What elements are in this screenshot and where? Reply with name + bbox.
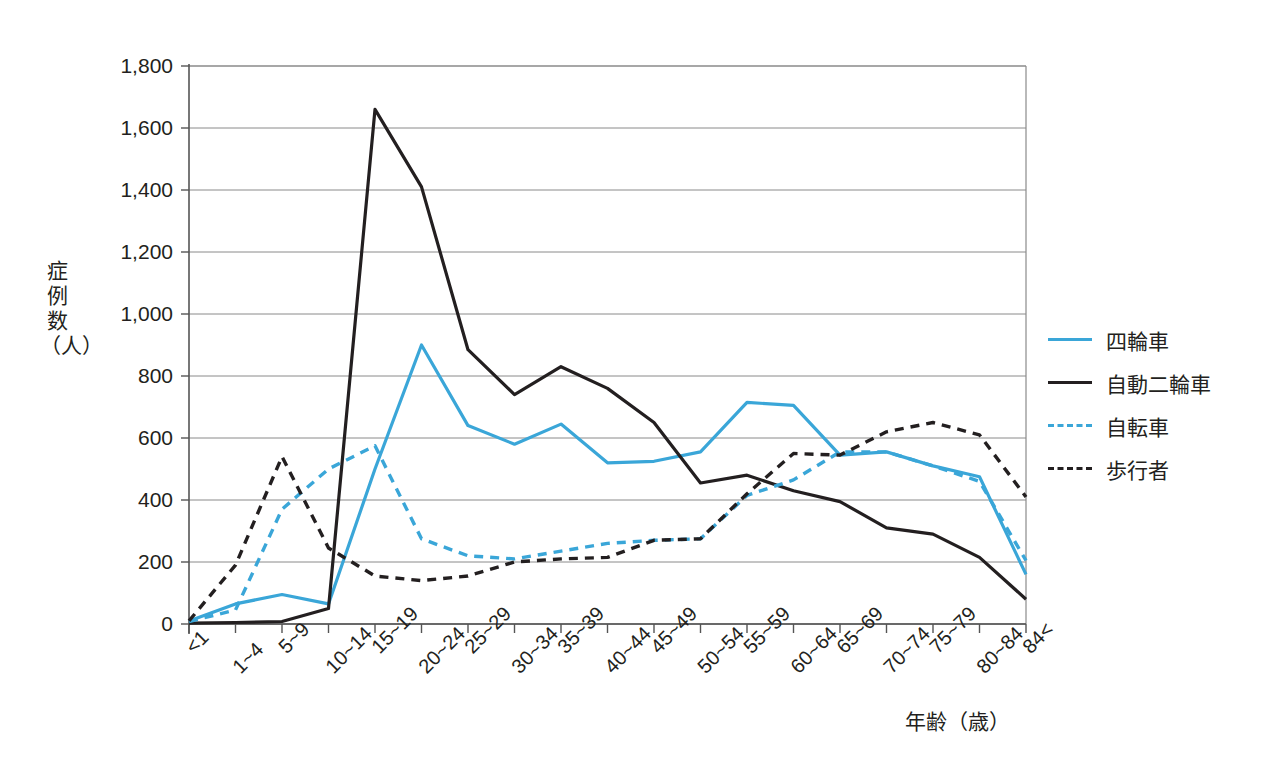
y-axis-tick-label: 1,000 <box>85 301 173 327</box>
y-axis-tick-label: 400 <box>85 487 173 513</box>
y-axis-tick-label: 600 <box>85 425 173 451</box>
legend-item-label: 歩行者 <box>1106 454 1169 484</box>
y-axis-tick-label: 200 <box>85 549 173 575</box>
y-axis-tick-label: 1,600 <box>85 115 173 141</box>
x-tick-marks <box>189 624 1026 633</box>
y-axis-tick-label: 0 <box>85 611 173 637</box>
legend-item-4: 歩行者 <box>1048 447 1211 490</box>
legend-item-label: 四輪車 <box>1106 325 1169 355</box>
y-axis-tick-label: 1,400 <box>85 177 173 203</box>
series-line-2 <box>189 109 1026 623</box>
legend-item-label: 自動二輪車 <box>1106 368 1211 398</box>
y-axis-tick-label: 1,200 <box>85 239 173 265</box>
legend-item-label: 自転車 <box>1106 411 1169 441</box>
legend-item-1: 四輪車 <box>1048 318 1211 361</box>
legend-item-2: 自動二輪車 <box>1048 361 1211 404</box>
gridlines <box>189 66 1026 624</box>
legend-line-swatch <box>1048 424 1092 427</box>
legend-line-swatch <box>1048 338 1092 341</box>
legend-line-swatch <box>1048 467 1092 470</box>
legend-item-3: 自転車 <box>1048 404 1211 447</box>
legend-line-swatch <box>1048 381 1092 384</box>
plot-border <box>189 64 1026 634</box>
y-axis-tick-label: 1,800 <box>85 53 173 79</box>
y-tick-marks <box>181 66 189 624</box>
series-line-3 <box>189 446 1026 622</box>
x-axis-title: 年齢（歳） <box>905 705 1010 735</box>
chart-figure: 症 例 数 （人） 02004006008001,0001,2001,4001,… <box>0 0 1286 782</box>
series-layer <box>189 109 1026 623</box>
chart-legend: 四輪車自動二輪車自転車歩行者 <box>1048 318 1211 490</box>
series-line-4 <box>189 423 1026 621</box>
y-axis-tick-label: 800 <box>85 363 173 389</box>
